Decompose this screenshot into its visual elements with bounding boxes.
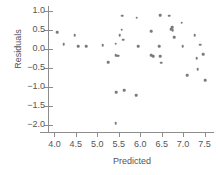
x-axis-label: Predicted bbox=[48, 156, 216, 166]
plot-area: 1.00.50.0−0.5−1.0−1.5−2.0 4.04.55.05.56.… bbox=[48, 6, 214, 132]
x-tick-label: 5.5 bbox=[113, 139, 126, 149]
x-tick-mark bbox=[54, 132, 55, 137]
scatter-point bbox=[114, 122, 117, 125]
y-tick-label: 1.0 bbox=[32, 5, 45, 15]
scatter-point bbox=[181, 22, 184, 25]
y-tick-label: −1.0 bbox=[27, 81, 45, 91]
scatter-point bbox=[56, 31, 59, 34]
scatter-point bbox=[168, 14, 171, 17]
x-tick-label: 7.0 bbox=[177, 139, 190, 149]
scatter-point bbox=[199, 43, 202, 46]
y-tick-mark bbox=[44, 11, 53, 12]
scatter-point bbox=[107, 61, 110, 64]
y-tick-mark bbox=[44, 68, 53, 69]
scatter-point bbox=[135, 94, 138, 97]
x-tick-mark bbox=[97, 132, 98, 137]
y-tick-mark bbox=[44, 125, 53, 126]
scatter-point bbox=[159, 55, 162, 58]
scatter-point bbox=[137, 45, 140, 48]
scatter-point bbox=[173, 36, 176, 39]
scatter-point bbox=[158, 45, 161, 48]
scatter-point bbox=[122, 38, 125, 41]
x-tick-label: 5.0 bbox=[91, 139, 104, 149]
y-tick-label: 0.0 bbox=[32, 43, 45, 53]
scatter-point bbox=[77, 45, 80, 48]
scatter-point bbox=[118, 34, 121, 37]
scatter-point bbox=[159, 14, 162, 17]
y-tick-label: −1.5 bbox=[27, 100, 45, 110]
scatter-point bbox=[196, 57, 199, 60]
x-tick-label: 4.0 bbox=[48, 139, 61, 149]
y-axis-line bbox=[48, 6, 49, 132]
x-tick-label: 6.5 bbox=[155, 139, 168, 149]
scatter-point bbox=[202, 53, 205, 56]
y-tick-label: −2.0 bbox=[27, 119, 45, 129]
scatter-point bbox=[150, 30, 153, 33]
x-tick-mark bbox=[183, 132, 184, 137]
scatter-point bbox=[85, 45, 88, 48]
scatter-point bbox=[114, 43, 117, 46]
y-tick-mark bbox=[44, 49, 53, 50]
scatter-point bbox=[152, 55, 155, 58]
y-tick-label: −0.5 bbox=[27, 62, 45, 72]
y-tick-mark bbox=[44, 87, 53, 88]
scatter-point bbox=[123, 89, 126, 92]
x-tick-mark bbox=[119, 132, 120, 137]
residual-plot-figure: Residuals Predicted 1.00.50.0−0.5−1.0−1.… bbox=[0, 0, 220, 175]
scatter-point bbox=[172, 29, 175, 32]
y-tick-mark bbox=[44, 106, 53, 107]
scatter-point bbox=[186, 74, 189, 77]
scatter-point bbox=[73, 34, 76, 37]
scatter-point bbox=[181, 45, 184, 48]
x-tick-mark bbox=[76, 132, 77, 137]
x-tick-label: 4.5 bbox=[70, 139, 83, 149]
y-tick-label: 0.5 bbox=[32, 24, 45, 34]
scatter-point bbox=[121, 14, 124, 17]
scatter-point bbox=[196, 68, 199, 71]
scatter-point bbox=[135, 17, 138, 20]
scatter-point bbox=[193, 34, 196, 37]
x-tick-mark bbox=[205, 132, 206, 137]
scatter-point bbox=[63, 43, 66, 46]
x-tick-label: 6.0 bbox=[134, 139, 147, 149]
scatter-point bbox=[115, 91, 118, 94]
x-tick-mark bbox=[162, 132, 163, 137]
scatter-point bbox=[204, 79, 207, 82]
scatter-point bbox=[120, 28, 123, 31]
x-tick-mark bbox=[140, 132, 141, 137]
x-axis-line bbox=[40, 132, 214, 133]
y-axis-label: Residuals bbox=[13, 9, 23, 89]
scatter-point bbox=[102, 44, 105, 47]
x-tick-label: 7.5 bbox=[198, 139, 211, 149]
scatter-point bbox=[117, 54, 120, 57]
scatter-point bbox=[160, 62, 163, 65]
y-tick-mark bbox=[44, 30, 53, 31]
